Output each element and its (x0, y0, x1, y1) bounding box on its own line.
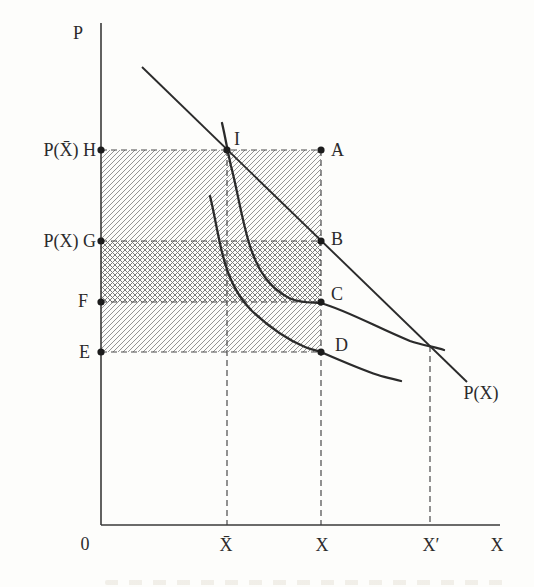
label-x: X (316, 535, 329, 555)
shaded-regions (101, 150, 321, 352)
point-g (97, 237, 104, 244)
point-h (97, 146, 104, 153)
label-demand-curve: P(X) (464, 383, 499, 404)
label-point-i: I (234, 129, 240, 149)
region-g-to-f-crosshatched (101, 241, 321, 302)
x-axis-title: X (491, 535, 504, 555)
economics-diagram: P P(X̄) H P(X) G F E I A B C D 0 X̄ X X′… (0, 0, 534, 587)
label-point-a: A (331, 140, 344, 160)
point-f (97, 298, 104, 305)
point-d (317, 348, 324, 355)
label-origin: 0 (81, 534, 90, 554)
label-xprime: X′ (423, 535, 440, 555)
y-axis-title: P (73, 23, 83, 43)
label-point-b: B (331, 229, 343, 249)
region-f-to-e-hatched (101, 302, 321, 352)
label-price-f: F (78, 291, 88, 311)
figure-canvas: P P(X̄) H P(X) G F E I A B C D 0 X̄ X X′… (0, 0, 534, 587)
label-point-c: C (331, 284, 343, 304)
label-price-h: P(X̄) H (44, 140, 97, 161)
label-xbar: X̄ (220, 535, 233, 555)
point-a (317, 146, 324, 153)
point-e (97, 348, 104, 355)
label-price-g: P(X) G (44, 231, 97, 252)
point-b (317, 237, 324, 244)
point-i (223, 146, 230, 153)
point-c (317, 298, 324, 305)
label-point-d: D (335, 335, 348, 355)
label-price-e: E (79, 342, 90, 362)
